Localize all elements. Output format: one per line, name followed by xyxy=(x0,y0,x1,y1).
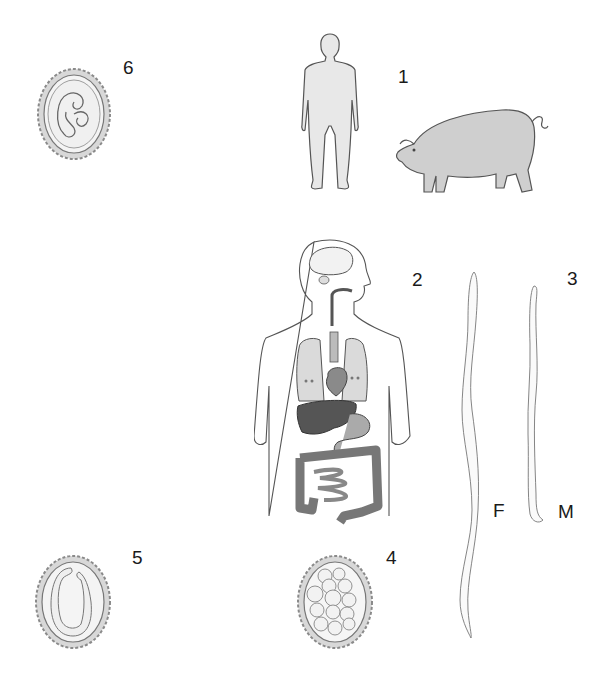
pig-icon xyxy=(392,102,552,197)
label-5: 5 xyxy=(132,548,143,567)
pig-host-illustration xyxy=(392,102,552,197)
unembryonated-egg-icon xyxy=(295,552,375,652)
egg-5-illustration xyxy=(33,552,113,652)
anatomy-icon xyxy=(254,236,414,526)
male-worm-illustration xyxy=(525,284,547,524)
label-6: 6 xyxy=(123,58,134,77)
label-male: M xyxy=(558,502,574,521)
label-3: 3 xyxy=(567,269,578,288)
human-host-illustration xyxy=(295,30,365,195)
human-anatomy-illustration xyxy=(254,236,414,526)
male-worm-icon xyxy=(525,284,547,524)
label-4: 4 xyxy=(386,548,397,567)
embryonated-egg-icon xyxy=(34,64,114,164)
label-female: F xyxy=(493,501,505,520)
larvated-egg-icon xyxy=(33,552,113,652)
human-icon xyxy=(295,30,365,195)
female-worm-icon xyxy=(454,270,490,640)
female-worm-illustration xyxy=(454,270,490,640)
egg-4-illustration xyxy=(295,552,375,652)
label-1: 1 xyxy=(398,67,409,86)
egg-6-illustration xyxy=(34,64,114,164)
